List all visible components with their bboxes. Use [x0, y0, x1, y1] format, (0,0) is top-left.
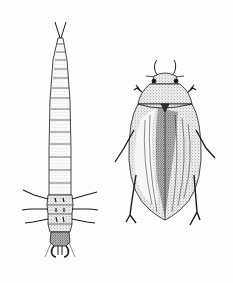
illustration-canvas	[0, 0, 233, 283]
adult-beetle	[115, 60, 215, 225]
beetle-illustration	[0, 0, 233, 283]
larva	[22, 22, 98, 257]
